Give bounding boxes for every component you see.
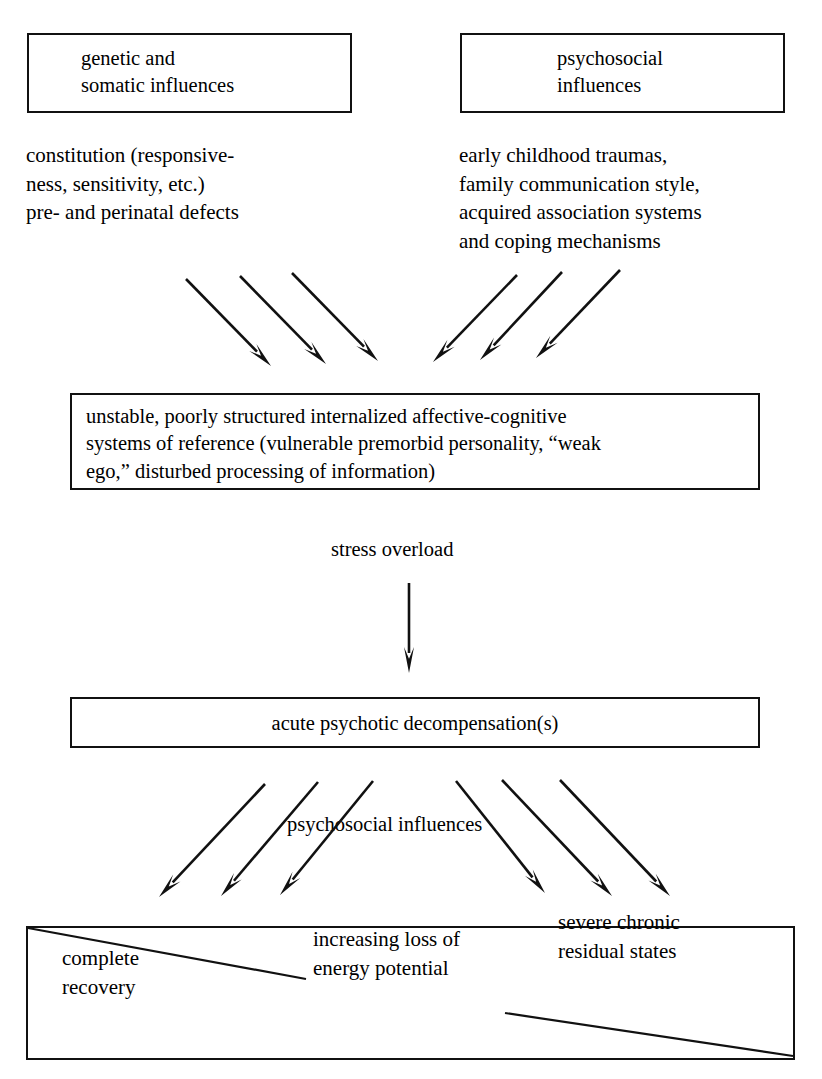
bottom-right-group-arrow-2 xyxy=(560,780,670,896)
top-left-group-arrow-0 xyxy=(186,279,271,366)
top-left-group-arrow-1 xyxy=(240,276,326,364)
box-acute-psychotic-decompensation: acute psychotic decompensation(s) xyxy=(70,697,760,748)
outcome-complete-recovery: complete recovery xyxy=(62,944,139,1001)
text-genetic-somatic-details: constitution (responsive- ness, sensitiv… xyxy=(26,141,239,227)
bottom-left-group-arrow-0 xyxy=(159,784,265,897)
bottom-left-group-arrow-1 xyxy=(221,782,318,896)
top-right-group-arrow-0 xyxy=(433,275,517,362)
top-right-group-arrow-2 xyxy=(536,270,620,358)
box-psychosocial-influences-label: psychosocial influences xyxy=(557,45,663,100)
bottom-left-group-arrow-2 xyxy=(280,781,373,895)
outcome-increasing-loss-of-energy-potential: increasing loss of energy potential xyxy=(313,925,460,982)
top-left-group-arrow-2 xyxy=(292,273,378,361)
box-genetic-somatic-influences: genetic and somatic influences xyxy=(27,33,352,113)
diagram-canvas: genetic and somatic influences psychosoc… xyxy=(0,0,822,1079)
box-acute-psychotic-decompensation-label: acute psychotic decompensation(s) xyxy=(72,710,758,737)
text-psychosocial-details: early childhood traumas, family communic… xyxy=(459,141,702,255)
box-genetic-somatic-influences-label: genetic and somatic influences xyxy=(81,45,234,100)
bottom-right-group-arrow-1 xyxy=(502,780,612,896)
vertical-arrow-0 xyxy=(404,583,414,673)
outcome-severe-chronic-residual-states: severe chronic residual states xyxy=(558,908,680,965)
top-right-group-arrow-1 xyxy=(480,272,562,360)
box-psychosocial-influences: psychosocial influences xyxy=(460,33,785,113)
label-psychosocial-influences-outcome: psychosocial influences xyxy=(283,813,486,836)
box-unstable-systems-of-reference: unstable, poorly structured internalized… xyxy=(70,393,760,490)
bottom-right-group-arrow-0 xyxy=(456,781,545,893)
label-stress-overload: stress overload xyxy=(331,538,453,561)
box-unstable-systems-of-reference-label: unstable, poorly structured internalized… xyxy=(86,403,601,485)
